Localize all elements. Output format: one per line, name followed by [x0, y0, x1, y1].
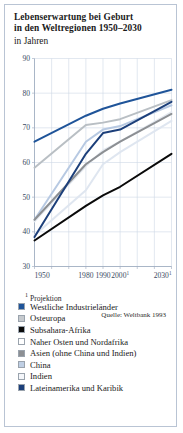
legend-swatch-icon	[18, 338, 25, 345]
footnote-marker: 1	[25, 292, 28, 298]
legend-item-label: Lateinamerika und Karibik	[30, 383, 123, 393]
legend-item-label: Indien	[30, 371, 52, 381]
x-axis-tick-label: 1980	[78, 271, 93, 280]
chart-legend: Westliche IndustrieländerOsteuropaSubsah…	[5, 301, 178, 394]
y-axis-tick-label: 40	[22, 227, 30, 236]
line-chart-svg: 304050607080901950198019902000120301	[5, 49, 178, 285]
y-axis-tick-label: 50	[22, 193, 30, 202]
legend-swatch-icon	[18, 361, 25, 368]
legend-item[interactable]: Lateinamerika und Karibik	[5, 382, 178, 394]
legend-item[interactable]: Osteuropa	[5, 313, 178, 325]
legend-item[interactable]: Asien (ohne China und Indien)	[5, 347, 178, 359]
title-block: Lebenserwartung bei Geburt in den Weltre…	[5, 5, 176, 49]
chart-subtitle: in Jahren	[14, 35, 167, 47]
x-axis-tick-label: 20001	[111, 270, 129, 280]
legend-item[interactable]: Indien	[5, 371, 178, 383]
legend-item[interactable]: Subsahara-Afrika	[5, 324, 178, 336]
legend-item[interactable]: Naher Osten und Nordafrika	[5, 336, 178, 348]
figure-panel: Lebenserwartung bei Geburt in den Weltre…	[4, 4, 177, 427]
legend-item-label: China	[30, 360, 51, 370]
legend-item-label: Westliche Industrieländer	[30, 302, 118, 312]
legend-item-label: Osteuropa	[30, 313, 65, 323]
legend-swatch-icon	[18, 315, 25, 322]
chart-title-line-2: in den Weltregionen 1950–2030	[14, 23, 167, 34]
legend-item-label: Asien (ohne China und Indien)	[30, 348, 136, 358]
y-axis-tick-label: 30	[22, 262, 30, 271]
legend-swatch-icon	[18, 384, 25, 391]
x-axis-tick-label: 1990	[95, 271, 110, 280]
x-axis-tick-label: 20301	[154, 270, 172, 280]
legend-swatch-icon	[18, 326, 25, 333]
x-axis-tick-label: 1950	[35, 271, 50, 280]
legend-swatch-icon	[18, 350, 25, 357]
chart-title-line-1: Lebenserwartung bei Geburt	[14, 12, 167, 23]
y-axis-tick-label: 60	[22, 158, 30, 167]
legend-item-label: Subsahara-Afrika	[30, 325, 91, 335]
y-axis-tick-label: 90	[22, 54, 30, 63]
legend-item[interactable]: China	[5, 359, 178, 371]
legend-swatch-icon	[18, 303, 25, 310]
y-axis-tick-label: 70	[22, 123, 30, 132]
legend-swatch-icon	[18, 373, 25, 380]
legend-item[interactable]: Westliche Industrieländer	[5, 301, 178, 313]
legend-item-label: Naher Osten und Nordafrika	[30, 337, 128, 347]
y-axis-tick-label: 80	[22, 89, 30, 98]
plot-area: 304050607080901950198019902000120301	[5, 49, 178, 285]
